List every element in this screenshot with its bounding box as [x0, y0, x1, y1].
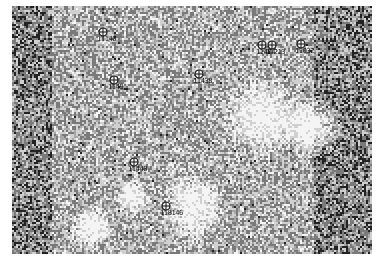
marker-label: 11438: [193, 78, 212, 85]
map-view[interactable]: [12, 6, 372, 254]
marker-label: 11440: [128, 166, 147, 173]
terrain-raster: [12, 6, 372, 254]
marker-label: 1149: [108, 84, 123, 91]
marker-label: 11140: [97, 36, 116, 43]
marker-label: 11213: [266, 49, 285, 56]
marker-label: 11032: [295, 48, 314, 55]
marker-label: 118146: [160, 210, 183, 217]
